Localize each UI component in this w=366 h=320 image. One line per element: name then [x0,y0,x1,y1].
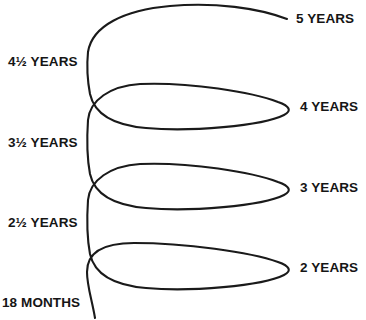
label-2-years: 2 YEARS [300,261,358,275]
label-5-years-text: 5 YEARS [296,11,354,26]
label-2-years-text: 2 YEARS [300,260,358,275]
label-18-months: 18 MONTHS [2,296,80,310]
spiral-curve [87,5,289,318]
label-3-years: 3 YEARS [300,181,358,195]
label-3-and-a-half-years-text: 3½ YEARS [8,135,78,150]
label-3-and-a-half-years: 3½ YEARS [8,136,78,150]
label-4-and-a-half-years: 4½ YEARS [8,55,78,69]
label-4-years: 4 YEARS [300,100,358,114]
label-3-years-text: 3 YEARS [300,180,358,195]
label-5-years: 5 YEARS [296,12,354,26]
label-4-and-a-half-years-text: 4½ YEARS [8,54,78,69]
label-2-and-a-half-years: 2½ YEARS [8,216,78,230]
label-18-months-text: 18 MONTHS [2,295,80,310]
label-4-years-text: 4 YEARS [300,99,358,114]
label-2-and-a-half-years-text: 2½ YEARS [8,215,78,230]
